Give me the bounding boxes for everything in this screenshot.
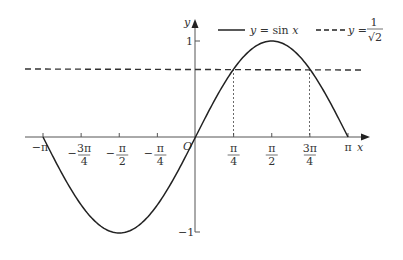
y-tick-label-1: 1 bbox=[186, 35, 193, 48]
legend-const-label: y = bbox=[347, 24, 367, 37]
x-tick-denominator: 4 bbox=[230, 155, 237, 168]
x-tick-numerator: π bbox=[157, 142, 164, 155]
x-tick-numerator: π bbox=[230, 142, 237, 155]
legend: y = sin x y = 1 √2 bbox=[218, 16, 383, 44]
y-axis-label: y bbox=[183, 16, 191, 29]
constant-line-one-over-root2 bbox=[25, 69, 363, 70]
x-tick-denominator: 2 bbox=[119, 155, 126, 168]
sine-chart: 1 −1 y x O −π−3π4−π2−π4π4π23π4π y = sin … bbox=[0, 0, 403, 260]
x-tick-numerator: 3π bbox=[303, 142, 317, 155]
x-tick-sign: − bbox=[68, 147, 77, 160]
y-tick-label-neg1: −1 bbox=[178, 226, 194, 239]
y-axis-arrow-icon bbox=[192, 19, 199, 28]
x-tick-sign: − bbox=[144, 147, 153, 160]
x-tick-denominator: 4 bbox=[157, 155, 164, 168]
x-tick-sign: − bbox=[106, 147, 115, 160]
x-tick-numerator: π bbox=[268, 142, 275, 155]
legend-const-denominator: √2 bbox=[368, 31, 382, 44]
legend-const-numerator: 1 bbox=[371, 16, 378, 29]
x-tick-denominator: 4 bbox=[306, 155, 313, 168]
x-tick-numerator: π bbox=[119, 142, 126, 155]
legend-sine-label: y = sin x bbox=[249, 24, 299, 37]
x-axis-arrow-icon bbox=[361, 134, 370, 141]
x-axis-label: x bbox=[357, 141, 364, 154]
x-tick-label: π bbox=[344, 141, 351, 154]
x-tick-denominator: 4 bbox=[81, 155, 88, 168]
x-tick-numerator: 3π bbox=[77, 142, 91, 155]
x-tick-denominator: 2 bbox=[268, 155, 275, 168]
